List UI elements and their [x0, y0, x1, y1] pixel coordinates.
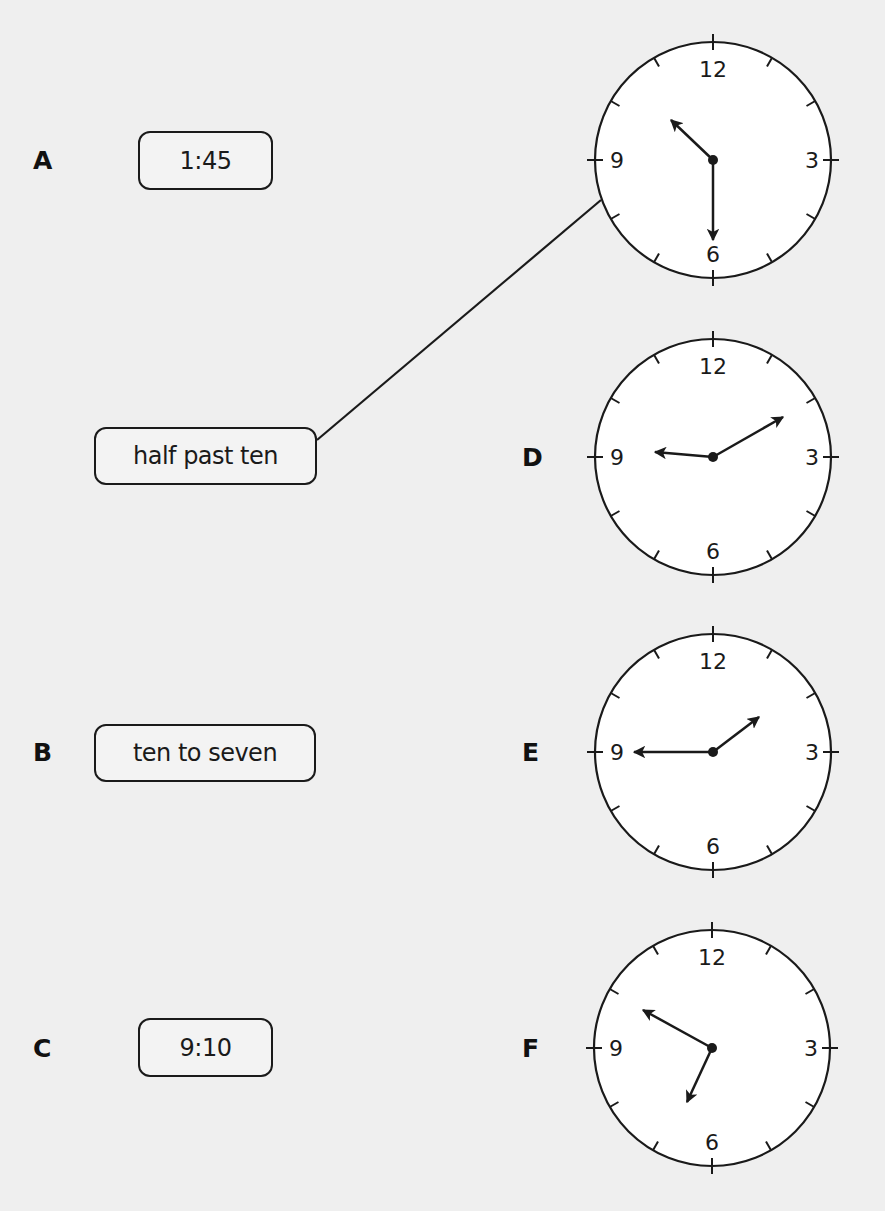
clock-e[interactable]: 12 3 6 9: [587, 626, 839, 878]
numeral-12: 12: [699, 57, 727, 82]
numeral-9: 9: [609, 1036, 623, 1061]
clock-d[interactable]: 12 3 6 9: [587, 331, 839, 583]
numeral-9: 9: [610, 148, 624, 173]
clock-center: [708, 747, 718, 757]
numeral-12: 12: [699, 649, 727, 674]
numeral-9: 9: [610, 445, 624, 470]
numeral-3: 3: [805, 445, 819, 470]
matching-exercise: A B C 1:45 half past ten ten to seven 9:…: [0, 0, 885, 1211]
clock-center: [708, 452, 718, 462]
clock-f[interactable]: 12 3 6 9: [586, 922, 838, 1174]
numeral-3: 3: [805, 740, 819, 765]
clock-center: [708, 155, 718, 165]
numeral-6: 6: [705, 1130, 719, 1155]
numeral-9: 9: [610, 740, 624, 765]
numeral-12: 12: [698, 945, 726, 970]
numeral-6: 6: [706, 242, 720, 267]
numeral-6: 6: [706, 834, 720, 859]
match-line[interactable]: [317, 200, 601, 440]
numeral-3: 3: [805, 148, 819, 173]
clock-center: [707, 1043, 717, 1053]
clock-top[interactable]: 12 3 6 9: [587, 34, 839, 286]
numeral-3: 3: [804, 1036, 818, 1061]
numeral-12: 12: [699, 354, 727, 379]
numeral-6: 6: [706, 539, 720, 564]
clocks-and-lines: 12 3 6 9 12 3 6 9 12 3 6 9: [0, 0, 885, 1211]
